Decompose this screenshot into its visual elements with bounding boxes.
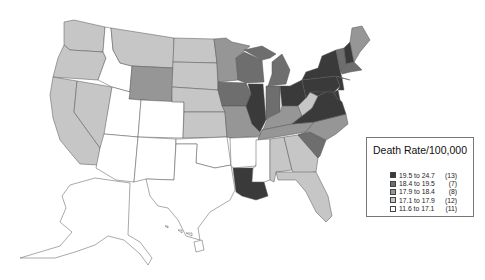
legend-items: 19.5 to 24.7 (13) 18.4 to 19.5 (7) 17.9 … — [390, 171, 457, 213]
legend-swatch — [390, 189, 396, 195]
legend: Death Rate/100,000 19.5 to 24.7 (13) 18.… — [366, 137, 474, 217]
legend-item: 18.4 to 19.5 (7) — [390, 179, 457, 187]
state-AZ — [96, 134, 138, 182]
legend-item: 11.6 to 17.1 (11) — [390, 205, 457, 213]
state-CO — [138, 100, 184, 138]
state-WY — [129, 66, 173, 102]
state-SD — [172, 62, 218, 90]
legend-swatch — [390, 181, 396, 187]
state-KS — [183, 112, 227, 138]
legend-swatch — [390, 197, 396, 203]
legend-swatch — [390, 206, 396, 212]
legend-title: Death Rate/100,000 — [367, 144, 473, 156]
state-WA — [64, 20, 105, 52]
legend-range: 18.4 to 19.5 — [399, 180, 441, 187]
legend-count: (13) — [441, 172, 457, 179]
state-ND — [173, 38, 217, 63]
state-NM — [134, 137, 176, 182]
legend-range: 17.1 to 17.9 — [399, 197, 441, 204]
state-MT — [111, 28, 174, 68]
legend-count: (12) — [441, 197, 457, 204]
legend-range: 11.6 to 17.1 — [399, 205, 441, 212]
legend-item: 17.9 to 18.4 (8) — [390, 188, 457, 196]
state-AR — [230, 137, 259, 168]
state-FL — [276, 172, 332, 222]
state-IA — [218, 82, 251, 106]
legend-count: (8) — [441, 188, 457, 195]
legend-item: 17.1 to 17.9 (12) — [390, 196, 457, 204]
legend-range: 19.5 to 24.7 — [399, 172, 441, 179]
legend-range: 17.9 to 18.4 — [399, 188, 441, 195]
legend-count: (7) — [441, 180, 457, 187]
state-AK — [20, 178, 152, 265]
legend-swatch — [390, 172, 396, 178]
legend-count: (11) — [441, 205, 457, 212]
state-ME — [350, 26, 370, 62]
legend-item: 19.5 to 24.7 (13) — [390, 171, 457, 179]
